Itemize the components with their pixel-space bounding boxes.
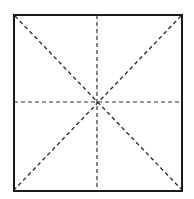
diagram-canvas [0, 0, 194, 199]
